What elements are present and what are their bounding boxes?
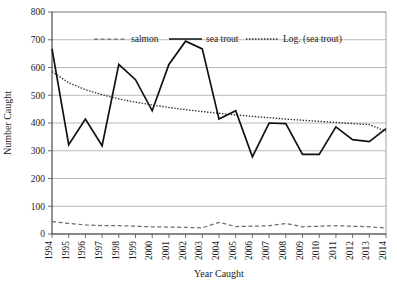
- x-tick-label: 2003: [194, 241, 204, 260]
- y-tick-label: 600: [31, 63, 46, 73]
- x-tick-label: 1995: [61, 241, 71, 260]
- x-tick-label: 2012: [345, 241, 355, 260]
- x-tick-label: 2007: [261, 241, 271, 260]
- y-tick-label: 700: [31, 35, 46, 45]
- chart-container: 0100200300400500600700800 19941995199619…: [0, 0, 397, 285]
- x-tick-label: 1999: [128, 241, 138, 260]
- x-tick-label: 2004: [211, 241, 221, 260]
- x-axis-title: Year Caught: [194, 268, 244, 279]
- x-tick-label: 2000: [144, 241, 154, 260]
- legend-label: sea trout: [206, 34, 239, 44]
- y-tick-label: 500: [31, 91, 46, 101]
- x-tick-label: 1997: [94, 241, 104, 260]
- x-tick-label: 2002: [178, 241, 188, 260]
- y-tick-label: 800: [31, 7, 46, 17]
- x-tick-label: 2013: [361, 241, 371, 260]
- x-tick-label: 2001: [161, 241, 171, 260]
- line-chart: 0100200300400500600700800 19941995199619…: [0, 0, 397, 285]
- chart-legend: salmonsea troutLog. (sea trout): [94, 34, 342, 45]
- x-tick-label: 2010: [311, 241, 321, 260]
- x-axis-tick-labels: 1994199519961997199819992000200120022003…: [44, 241, 388, 260]
- x-tick-label: 2009: [295, 241, 305, 260]
- y-tick-label: 0: [40, 229, 45, 239]
- x-tick-label: 1996: [77, 241, 87, 260]
- x-tick-label: 2014: [378, 241, 388, 260]
- x-tick-label: 2006: [244, 241, 254, 260]
- x-axis-ticks: [52, 234, 386, 238]
- y-axis-tick-labels: 0100200300400500600700800: [31, 7, 46, 239]
- x-tick-label: 1994: [44, 241, 54, 260]
- y-tick-label: 400: [31, 118, 46, 128]
- legend-label: salmon: [131, 34, 159, 44]
- y-axis-title: Number Caught: [2, 91, 13, 155]
- y-tick-label: 100: [31, 202, 46, 212]
- x-tick-label: 2008: [278, 241, 288, 260]
- x-tick-label: 1998: [111, 241, 121, 260]
- x-tick-label: 2011: [328, 241, 338, 260]
- legend-label: Log. (sea trout): [283, 34, 342, 45]
- y-tick-label: 300: [31, 146, 46, 156]
- x-tick-label: 2005: [228, 241, 238, 260]
- y-tick-label: 200: [31, 174, 46, 184]
